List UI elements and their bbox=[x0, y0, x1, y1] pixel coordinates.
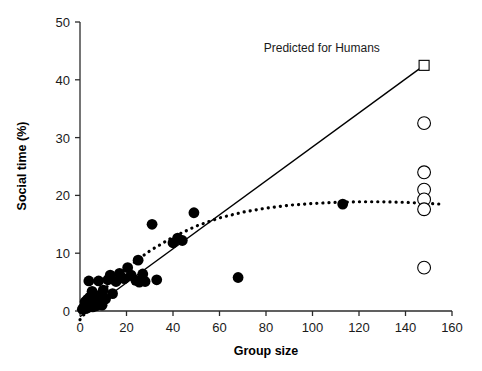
y-tick-label: 20 bbox=[56, 188, 70, 203]
data-point-filled bbox=[233, 272, 244, 283]
data-point-filled bbox=[177, 235, 188, 246]
data-point-filled bbox=[147, 219, 158, 230]
y-tick-label: 50 bbox=[56, 15, 70, 30]
data-point-open-circle bbox=[418, 261, 431, 274]
y-tick-label: 40 bbox=[56, 73, 70, 88]
data-point-filled bbox=[151, 274, 162, 285]
chart-figure: 02040608010012014016001020304050 Predict… bbox=[0, 0, 482, 371]
annotation-layer: Predicted for Humans bbox=[264, 41, 380, 55]
data-point-filled bbox=[337, 199, 348, 210]
data-point-open-square bbox=[419, 60, 429, 70]
data-point-filled bbox=[140, 276, 151, 287]
x-tick-label: 140 bbox=[395, 320, 417, 335]
y-axis-title: Social time (%) bbox=[15, 122, 29, 211]
data-point-filled bbox=[83, 276, 94, 287]
scatter-plot: 02040608010012014016001020304050 Predict… bbox=[0, 0, 482, 371]
data-point-filled bbox=[107, 288, 118, 299]
x-tick-label: 120 bbox=[348, 320, 370, 335]
data-point-filled bbox=[189, 207, 200, 218]
data-point-open-circle bbox=[418, 117, 431, 130]
data-point-filled bbox=[93, 276, 104, 287]
y-tick-label: 0 bbox=[63, 304, 70, 319]
x-axis-title: Group size bbox=[234, 344, 299, 358]
y-tick-label: 30 bbox=[56, 131, 70, 146]
data-point-filled bbox=[133, 255, 144, 266]
data-point-open-circle bbox=[418, 166, 431, 179]
x-tick-label: 100 bbox=[302, 320, 324, 335]
chart-background bbox=[0, 0, 482, 371]
x-tick-label: 20 bbox=[119, 320, 133, 335]
y-tick-label: 10 bbox=[56, 246, 70, 261]
x-tick-label: 160 bbox=[441, 320, 463, 335]
prediction-annotation-label: Predicted for Humans bbox=[264, 41, 380, 55]
x-tick-label: 0 bbox=[76, 320, 83, 335]
x-tick-label: 60 bbox=[212, 320, 226, 335]
x-tick-label: 80 bbox=[259, 320, 273, 335]
x-tick-label: 40 bbox=[166, 320, 180, 335]
data-point-open-circle bbox=[418, 203, 431, 216]
